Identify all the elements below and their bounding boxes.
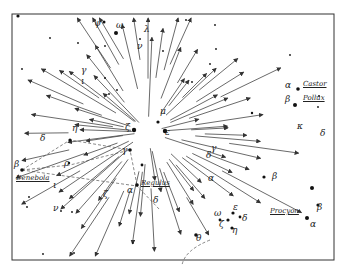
greek-letter-label: γ (81, 66, 86, 75)
greek-letter-label: θ (196, 234, 201, 243)
greek-letter-label: δ (40, 134, 45, 143)
greek-letter-label: β (317, 203, 322, 212)
greek-letter-label: ζ (103, 190, 108, 199)
star-name-label: Denebola (16, 175, 50, 182)
greek-letter-label: η (232, 226, 237, 235)
star-name-label: Regulus (141, 180, 170, 187)
greek-letter-label: ν (53, 204, 58, 213)
greek-letter-label: μ (160, 107, 166, 116)
star-name-label: Castor (303, 81, 327, 88)
greek-letter-label: ι (53, 181, 57, 190)
star-name-label: Pollux (303, 95, 325, 102)
chart-frame (12, 14, 334, 260)
greek-letter-label: ω (214, 209, 221, 218)
greek-letter-label: δ (242, 214, 247, 223)
greek-letter-label: η (72, 124, 77, 133)
greek-letter-label: κ (297, 122, 303, 131)
meteor-radiant-chart (0, 0, 348, 273)
greek-letter-label: δ (320, 129, 325, 138)
greek-letter-label: ρ (64, 159, 69, 168)
greek-letter-label: δ (153, 196, 158, 205)
greek-letter-label: ι (81, 77, 85, 86)
greek-letter-label: ε (233, 203, 238, 212)
greek-letter-label: ψ (94, 19, 101, 28)
star-greek-letter: α (285, 81, 291, 90)
greek-letter-label: γ (122, 146, 127, 155)
meteor-trail (25, 133, 69, 134)
star-greek-letter: α (127, 186, 133, 195)
greek-letter-label: β (272, 172, 277, 181)
greek-letter-label: λ (144, 25, 150, 34)
star-greek-letter: β (285, 95, 290, 104)
greek-letter-label: γ (211, 144, 216, 153)
greek-letter-label: ε (165, 128, 170, 137)
star-greek-letter: β (14, 160, 19, 169)
greek-letter-label: ζ (125, 123, 130, 132)
greek-letter-label: ω (116, 21, 123, 30)
star-greek-letter: α (310, 220, 316, 229)
greek-letter-label: ν (137, 42, 142, 51)
greek-letter-label: α (208, 174, 214, 183)
star-name-label: Procyon (270, 208, 299, 215)
greek-letter-label: ζ (219, 220, 224, 229)
